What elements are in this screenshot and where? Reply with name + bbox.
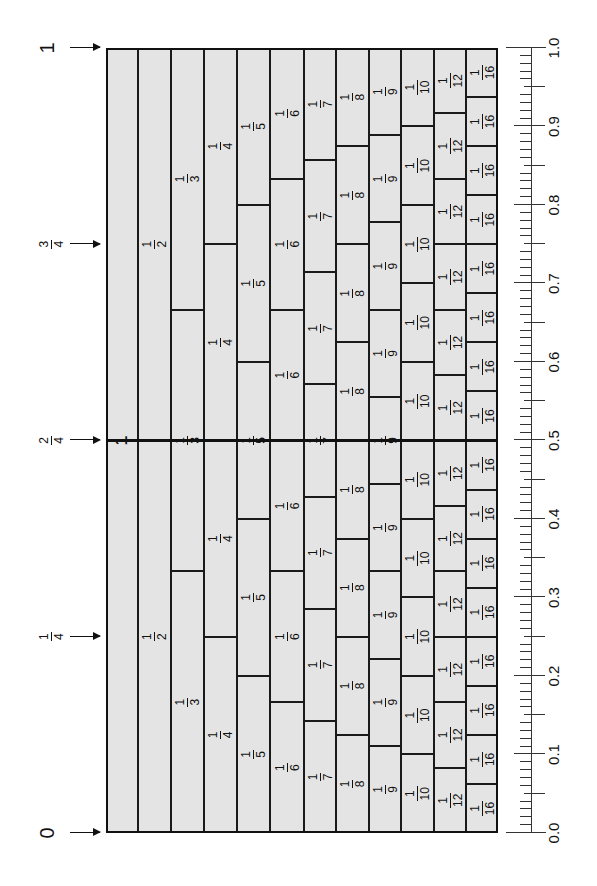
fraction-label: 16 — [274, 632, 301, 641]
numerator: 1 — [469, 657, 481, 666]
wall-cell-1-10: 110 — [401, 598, 434, 677]
minor-tick — [520, 447, 531, 448]
half-tick — [524, 322, 545, 323]
minor-tick — [520, 345, 531, 346]
numerator: 1 — [372, 785, 384, 794]
numerator: 1 — [404, 397, 416, 406]
wall-cell-1-9: 19 — [369, 48, 401, 135]
numerator: 1 — [469, 166, 481, 175]
denominator: 16 — [484, 114, 496, 129]
half-tick — [524, 86, 545, 87]
fraction-label: 17 — [307, 100, 334, 109]
wall-cell-1-16: 116 — [466, 293, 498, 342]
ruler-label: 0.3 — [545, 587, 562, 608]
wall-cell-1-16: 116 — [466, 97, 498, 146]
minor-tick — [520, 581, 531, 582]
wall-cell-1-10: 110 — [401, 205, 434, 284]
half-tick — [524, 243, 545, 244]
fraction-label: 116 — [469, 555, 496, 570]
wall-cell-1-12: 112 — [434, 768, 466, 833]
denominator: 10 — [419, 80, 431, 95]
numerator: 1 — [469, 363, 481, 372]
minor-tick — [520, 542, 531, 543]
numerator: 1 — [307, 548, 319, 557]
denominator: 8 — [354, 583, 366, 592]
numerator: 1 — [437, 338, 449, 347]
numerator: 1 — [38, 632, 50, 641]
denominator: 7 — [322, 212, 334, 221]
minor-tick — [520, 730, 531, 731]
denominator: 8 — [354, 387, 366, 396]
denominator: 12 — [452, 204, 464, 219]
fraction-label: 112 — [437, 269, 464, 284]
numerator: 1 — [437, 76, 449, 85]
wall-cell-1-16: 116 — [466, 48, 498, 97]
numerator: 1 — [307, 100, 319, 109]
minor-tick — [520, 589, 531, 590]
wall-cell-1-16: 116 — [466, 391, 498, 440]
fraction-wall-diagram: 1121213131314141414151515151516161616161… — [0, 0, 597, 886]
wall-cell-1-9: 19 — [369, 222, 401, 309]
wall-cell-1-7: 17 — [304, 609, 336, 721]
major-tick — [514, 440, 545, 441]
fraction-label: 18 — [339, 583, 366, 592]
minor-tick — [520, 353, 531, 354]
numerator: 1 — [240, 750, 252, 759]
wall-cell-1-16: 116 — [466, 146, 498, 195]
denominator: 9 — [387, 698, 399, 707]
fraction-label: 16 — [274, 371, 301, 380]
denominator: 2 — [156, 240, 168, 249]
numerator: 1 — [437, 665, 449, 674]
fraction-label: 16 — [274, 502, 301, 511]
fraction-label: 17 — [307, 212, 334, 221]
minor-tick — [520, 565, 531, 566]
minor-tick — [520, 424, 531, 425]
numerator: 1 — [274, 502, 286, 511]
denominator: 8 — [354, 485, 366, 494]
numerator: 1 — [141, 240, 153, 249]
wall-cell-1-5: 15 — [237, 48, 270, 205]
ruler-label: 0.2 — [545, 666, 562, 687]
fraction-label: 110 — [404, 786, 431, 801]
marker-1: 1 — [36, 33, 59, 63]
denominator: 16 — [484, 261, 496, 276]
major-tick — [514, 675, 545, 676]
denominator: 12 — [452, 73, 464, 88]
numerator: 1 — [469, 412, 481, 421]
numerator: 1 — [469, 706, 481, 715]
minor-tick — [520, 432, 531, 433]
wall-cell-1-16: 116 — [466, 539, 498, 588]
fraction-label: 14 — [207, 142, 234, 151]
numerator: 1 — [339, 780, 351, 789]
numerator: 1 — [174, 175, 186, 184]
minor-tick — [520, 133, 531, 134]
fraction-label: 19 — [372, 523, 399, 532]
fraction-label: 18 — [339, 289, 366, 298]
wall-cell-1-10: 110 — [401, 755, 434, 834]
denominator: 16 — [484, 212, 496, 227]
numerator: 1 — [469, 755, 481, 764]
denominator: 12 — [452, 596, 464, 611]
numerator: 1 — [307, 660, 319, 669]
denominator: 4 — [222, 534, 234, 543]
marker-0: 0 — [36, 818, 59, 848]
fraction-label: 18 — [339, 485, 366, 494]
fraction-label: 110 — [404, 237, 431, 252]
wall-cell-1-4: 14 — [204, 637, 237, 833]
minor-tick — [520, 691, 531, 692]
wall-cell-1-12: 112 — [434, 179, 466, 244]
wall-cell-1-6: 16 — [270, 571, 304, 702]
ruler-label: 0.5 — [545, 430, 562, 451]
denominator: 6 — [289, 632, 301, 641]
fraction-label: 116 — [469, 261, 496, 276]
numerator: 1 — [469, 608, 481, 617]
minor-tick — [520, 471, 531, 472]
fraction-label: 116 — [469, 114, 496, 129]
numerator: 1 — [240, 279, 252, 288]
numerator: 1 — [404, 554, 416, 563]
wall-cell-1-10: 110 — [401, 441, 434, 520]
arrow-icon — [70, 47, 100, 48]
minor-tick — [520, 55, 531, 56]
wall-cell-1-5: 15 — [237, 676, 270, 833]
minor-tick — [520, 385, 531, 386]
